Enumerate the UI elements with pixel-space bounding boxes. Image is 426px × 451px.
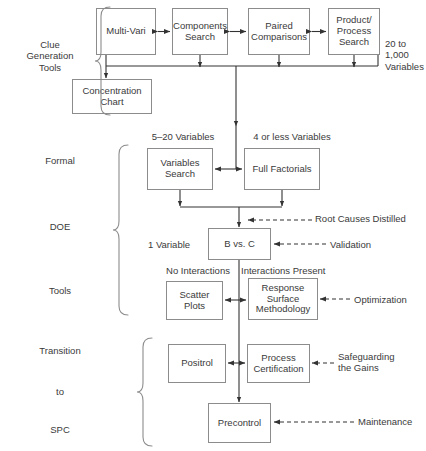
brace-transition-to-spc bbox=[137, 338, 152, 446]
connector-layer bbox=[0, 0, 426, 451]
brace-doe bbox=[113, 145, 128, 315]
brace-clue-generation-tools bbox=[95, 7, 110, 115]
process-flow-diagram: Multi-Vari Components Search Paired Comp… bbox=[0, 0, 426, 451]
